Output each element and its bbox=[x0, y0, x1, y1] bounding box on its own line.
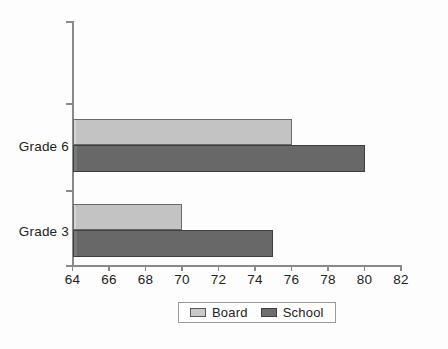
x-axis-tick bbox=[108, 265, 110, 271]
x-axis-tick bbox=[145, 265, 147, 271]
bar-grade-3-board bbox=[73, 204, 183, 230]
category-label-grade-6: Grade 6 bbox=[19, 139, 69, 154]
x-axis-tick bbox=[291, 265, 293, 271]
legend: Board School bbox=[178, 302, 336, 323]
category-label-grade-3: Grade 3 bbox=[19, 224, 69, 239]
y-axis-tick bbox=[66, 21, 73, 23]
x-axis-tick-label: 70 bbox=[167, 272, 197, 287]
x-axis-tick bbox=[72, 265, 74, 271]
x-axis-tick-label: 78 bbox=[313, 272, 343, 287]
legend-label-board: Board bbox=[212, 305, 248, 320]
legend-item-board: Board bbox=[190, 305, 248, 320]
x-axis-tick-label: 82 bbox=[386, 272, 416, 287]
x-axis-tick bbox=[181, 265, 183, 271]
bar-grade-6-board bbox=[73, 119, 292, 145]
x-axis-tick-label: 76 bbox=[277, 272, 307, 287]
legend-swatch-board bbox=[190, 308, 206, 317]
bar-grade-3-school bbox=[73, 230, 274, 257]
y-axis-tick bbox=[66, 103, 73, 105]
bar-chart: Grade 6 Grade 3 64666870727476788082 Boa… bbox=[0, 0, 448, 349]
x-axis-tick-label: 64 bbox=[58, 272, 88, 287]
x-axis-tick bbox=[254, 265, 256, 271]
y-axis-tick bbox=[66, 190, 73, 192]
x-axis-tick bbox=[327, 265, 329, 271]
x-axis-tick-label: 80 bbox=[350, 272, 380, 287]
legend-swatch-school bbox=[261, 308, 277, 317]
x-axis-tick-label: 72 bbox=[204, 272, 234, 287]
legend-item-school: School bbox=[261, 305, 324, 320]
x-axis-tick bbox=[218, 265, 220, 271]
bar-grade-6-school bbox=[73, 145, 365, 172]
x-axis-line bbox=[72, 265, 401, 267]
x-axis-tick-label: 68 bbox=[131, 272, 161, 287]
x-axis-tick-label: 66 bbox=[94, 272, 124, 287]
x-axis-tick bbox=[400, 265, 402, 271]
legend-label-school: School bbox=[283, 305, 324, 320]
x-axis-tick-label: 74 bbox=[240, 272, 270, 287]
x-axis-tick bbox=[364, 265, 366, 271]
